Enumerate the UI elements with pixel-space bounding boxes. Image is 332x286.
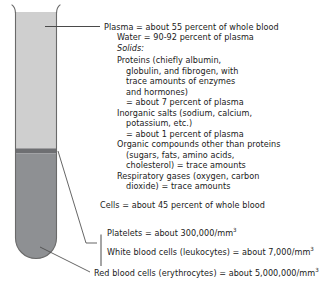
- white-blood-cells-text: White blood cells (leukocytes) = about 7…: [107, 247, 310, 257]
- plasma-proteins-line-5: = about 7 percent of plasma: [126, 97, 244, 108]
- test-tube-figure: [0, 0, 92, 286]
- white-blood-cells-line: White blood cells (leukocytes) = about 7…: [107, 244, 314, 258]
- plasma-organic-compounds-line-3: cholesterol) = trace amounts: [126, 160, 246, 171]
- plasma-respiratory-gases-line-1: Respiratory gases (oxygen, carbon: [117, 171, 259, 182]
- buffy-coat-layer: [14, 149, 59, 154]
- test-tube-lip-left: [12, 5, 16, 13]
- red-blood-cell-layer: [14, 154, 59, 260]
- plasma-proteins-line-1: Proteins (chiefly albumin,: [117, 55, 221, 66]
- plasma-organic-compounds-line-2: (sugars, fats, amino acids,: [126, 150, 234, 161]
- cells-heading: Cells = about 45 percent of whole blood: [100, 200, 265, 211]
- platelets-exponent: 3: [233, 227, 237, 233]
- platelets-line: Platelets = about 300,000/mm3: [107, 225, 237, 239]
- plasma-proteins-line-3: trace amounts of enzymes: [126, 76, 235, 87]
- plasma-proteins-line-4: and hormones): [126, 87, 188, 98]
- white-blood-cells-exponent: 3: [310, 246, 314, 252]
- red-blood-cells-exponent: 3: [315, 267, 319, 273]
- plasma-inorganic-salts-line-3: = about 1 percent of plasma: [126, 129, 244, 140]
- plasma-heading: Plasma = about 55 percent of whole blood: [104, 22, 279, 33]
- plasma-proteins-line-2: globulin, and fibrogen, with: [126, 66, 238, 77]
- red-blood-cells-line: Red blood cells (erythrocytes) = about 5…: [94, 265, 319, 279]
- plasma-inorganic-salts-line-1: Inorganic salts (sodium, calcium,: [117, 108, 252, 119]
- platelets-text: Platelets = about 300,000/mm: [107, 228, 233, 238]
- plasma-water-line: Water = 90-92 percent of plasma: [117, 32, 254, 43]
- plasma-layer: [14, 12, 59, 149]
- plasma-respiratory-gases-line-2: dioxide) = trace amounts: [126, 181, 230, 192]
- plasma-solids-heading: Solids:: [117, 43, 144, 54]
- blood-composition-diagram: Plasma = about 55 percent of whole blood…: [0, 0, 332, 286]
- test-tube-lip-right: [57, 5, 61, 13]
- plasma-organic-compounds-line-1: Organic compounds other than proteins: [117, 139, 281, 150]
- plasma-inorganic-salts-line-2: potassium, etc.): [126, 118, 192, 129]
- red-blood-cells-text: Red blood cells (erythrocytes) = about 5…: [94, 268, 315, 278]
